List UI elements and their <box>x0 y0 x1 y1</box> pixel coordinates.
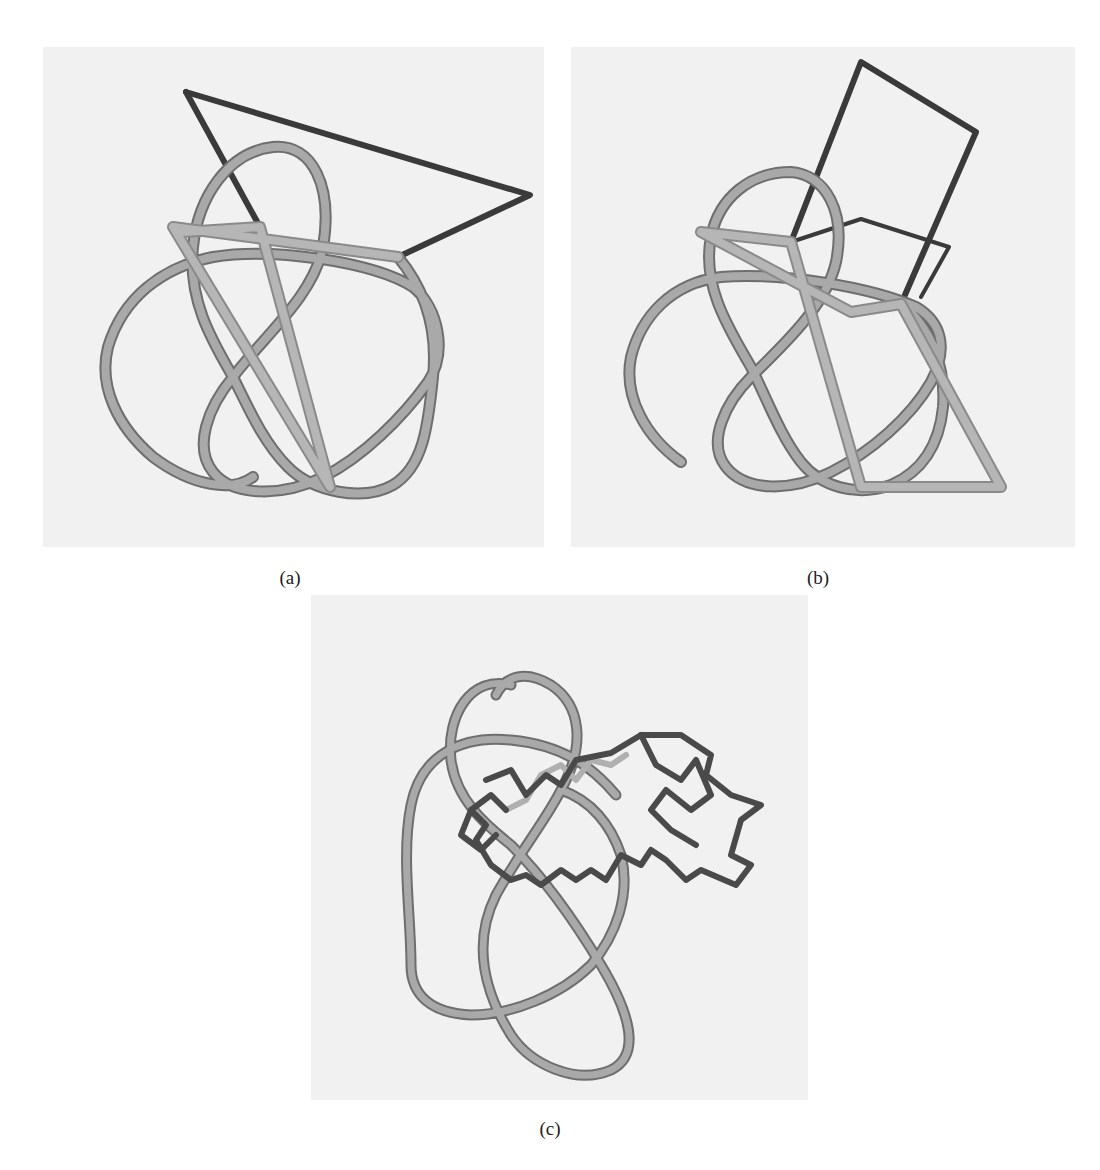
knot-diagram-c <box>311 595 808 1100</box>
knot-diagram-a <box>43 47 544 547</box>
caption-b: (b) <box>788 567 848 589</box>
knot-diagram-b <box>571 47 1075 547</box>
caption-a: (a) <box>260 567 320 589</box>
caption-c: (c) <box>520 1118 580 1140</box>
knot-tube <box>105 147 438 494</box>
knot-tube <box>629 172 943 490</box>
panel-a-knot-image <box>43 47 544 547</box>
panel-b-knot-image <box>571 47 1075 547</box>
panel-c-knot-image <box>311 595 808 1100</box>
